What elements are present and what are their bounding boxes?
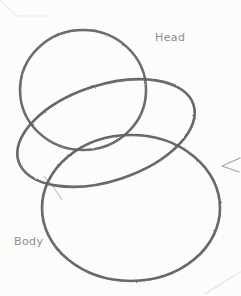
label-head: Head [155,31,185,44]
paper-background [0,0,241,296]
label-body: Body [14,235,43,248]
sketch-canvas [0,0,241,296]
sketch-page: Head Body [0,0,241,296]
